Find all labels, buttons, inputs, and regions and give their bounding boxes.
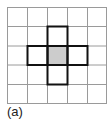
center-cell: [48, 46, 68, 65]
figure-caption: (a): [7, 105, 23, 119]
grid-diagram: [0, 0, 108, 104]
